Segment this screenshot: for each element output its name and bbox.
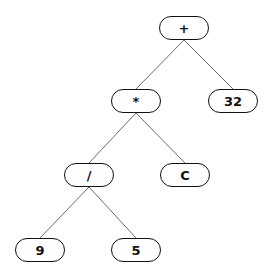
node-c: C <box>160 163 210 187</box>
node-divide: / <box>64 163 114 187</box>
node-32: 32 <box>208 89 258 113</box>
edge-multiply-to-c <box>136 113 185 163</box>
node-plus: + <box>159 16 209 40</box>
edge-plus-to-32 <box>184 40 233 89</box>
node-label: 9 <box>35 244 44 257</box>
node-label: / <box>87 169 92 182</box>
node-9: 9 <box>15 238 65 262</box>
node-label: C <box>180 169 190 182</box>
node-label: 5 <box>131 244 140 257</box>
node-label: * <box>133 95 140 108</box>
node-label: + <box>179 22 190 35</box>
node-multiply: * <box>111 89 161 113</box>
tree-edges <box>0 0 276 278</box>
edge-divide-to-9 <box>40 187 89 238</box>
node-label: 32 <box>224 95 242 108</box>
edge-divide-to-5 <box>89 187 136 238</box>
edge-multiply-to-divide <box>89 113 136 163</box>
edge-plus-to-multiply <box>136 40 184 89</box>
node-5: 5 <box>111 238 161 262</box>
